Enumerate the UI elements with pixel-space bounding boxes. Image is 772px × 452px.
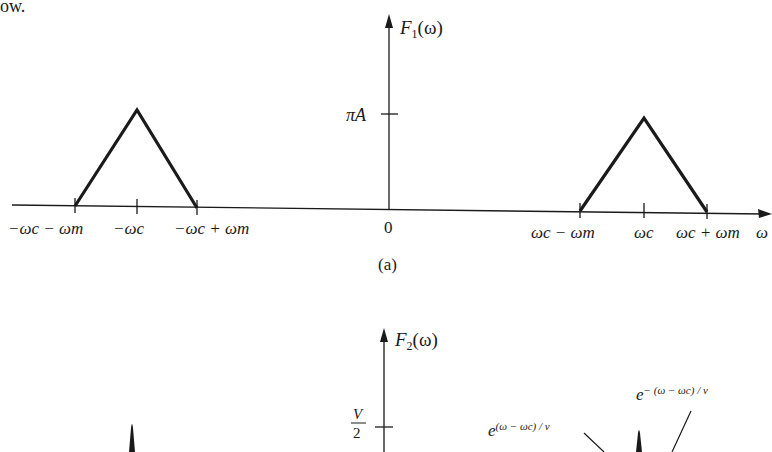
y-axis-label: F1(ω): [399, 17, 443, 41]
y-axis-2-arrow-icon: [380, 328, 388, 342]
xtick-label-5: ωc + ωm: [676, 223, 740, 242]
y-axis-arrow-icon: [385, 14, 393, 28]
annotation-left: e(ω − ωc) / ν: [488, 420, 550, 440]
xtick-label-3: ωc − ωm: [531, 223, 595, 242]
xtick-label-0: −ωc − ωm: [8, 219, 83, 238]
left-spike: [129, 424, 135, 452]
y-tick-label-denominator: 2: [353, 425, 361, 441]
y-tick-label: πA: [346, 105, 367, 125]
y-tick-label-numerator: V: [353, 406, 364, 422]
spectrum-figure: ow. F1(ω) πA 0 −ωc − ωm −ωc −ωc + ωm ωc …: [0, 0, 772, 452]
x-axis-label: ω: [756, 223, 768, 242]
right-triangle: [580, 118, 707, 212]
xtick-label-2: −ωc + ωm: [174, 219, 249, 238]
annotation-right: e− (ω − ωc) / ν: [636, 384, 708, 404]
x-axis-arrow-icon: [758, 209, 772, 218]
origin-label: 0: [384, 218, 393, 237]
left-triangle: [75, 110, 197, 208]
xtick-label-1: −ωc: [113, 219, 144, 238]
right-spike: [636, 430, 642, 452]
xtick-label-4: ωc: [634, 223, 654, 242]
annotation-left-pointer: [584, 433, 604, 452]
panel-a-chart: F1(ω) πA 0 −ωc − ωm −ωc −ωc + ωm ωc − ωm…: [8, 14, 772, 274]
header-text-fragment: ow.: [0, 0, 25, 16]
panel-b-chart: F2(ω) V 2 e(ω − ωc) / ν e− (ω − ωc) / ν: [129, 328, 708, 452]
annotation-right-pointer: [672, 411, 691, 452]
y-axis-2-label: F2(ω): [394, 329, 438, 353]
panel-a-label: (a): [378, 255, 397, 274]
